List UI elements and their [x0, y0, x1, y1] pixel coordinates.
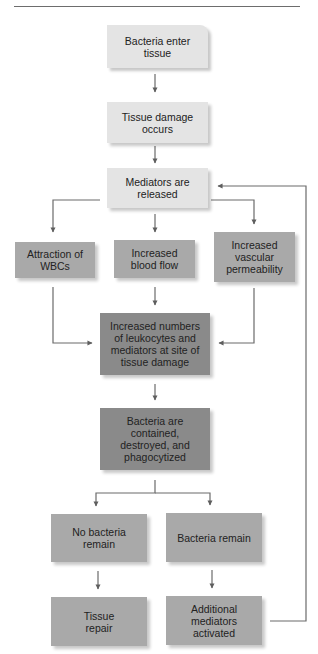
node-label: Bacteria enter tissue — [123, 35, 193, 59]
arrow-mediators-to-attraction — [53, 200, 100, 232]
node-increased-permeability: Increased vascular permeability — [214, 232, 295, 282]
node-attraction-wbcs: Attraction of WBCs — [15, 242, 95, 278]
node-label: Attraction of WBCs — [22, 248, 88, 272]
node-label: Increased vascular permeability — [224, 239, 286, 275]
node-mediators-released: Mediators are released — [107, 168, 208, 208]
node-tissue-damage: Tissue damage occurs — [107, 102, 208, 143]
node-bacteria-remain: Bacteria remain — [166, 513, 262, 562]
node-label: No bacteria remain — [61, 526, 137, 550]
node-bacteria-contained: Bacteria are contained, destroyed, and p… — [100, 408, 210, 470]
arrow-contained-to-no-bacteria — [96, 480, 155, 506]
arrow-mediators-to-permeability — [211, 200, 254, 224]
node-label: Increased blood flow — [125, 247, 185, 271]
node-label: Increased numbers of leukocytes and medi… — [105, 320, 205, 368]
node-increased-blood-flow: Increased blood flow — [114, 240, 195, 278]
arrow-contained-to-bacteria-remain — [155, 493, 210, 505]
node-label: Additional mediators activated — [184, 603, 244, 639]
arrow-permeability-to-leukocytes — [219, 288, 254, 343]
node-label: Tissue damage occurs — [118, 111, 198, 135]
node-label: Tissue repair — [79, 610, 119, 634]
node-increased-leukocytes: Increased numbers of leukocytes and medi… — [100, 313, 210, 375]
node-no-bacteria-remain: No bacteria remain — [51, 514, 147, 562]
node-bacteria-enter: Bacteria enter tissue — [107, 25, 208, 68]
node-label: Bacteria remain — [177, 532, 251, 544]
node-tissue-repair: Tissue repair — [51, 597, 147, 646]
node-label: Mediators are released — [123, 176, 193, 200]
node-additional-mediators: Additional mediators activated — [166, 596, 262, 645]
node-label: Bacteria are contained, destroyed, and p… — [119, 415, 191, 463]
arrow-attraction-to-leukocytes — [53, 287, 92, 343]
